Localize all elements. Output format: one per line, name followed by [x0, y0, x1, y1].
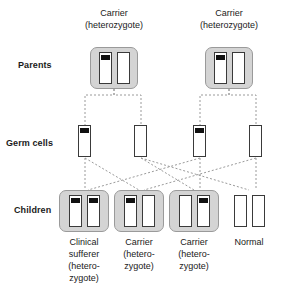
child-caption-carrier-1: Carrier (hetero- zygote) — [110, 236, 168, 272]
parent-cell-right — [205, 47, 253, 89]
germ-cell-normal — [134, 125, 147, 157]
connector-parent2-germ3 — [200, 89, 229, 125]
chromosome-normal — [234, 195, 247, 227]
parent-caption-line: Carrier — [62, 7, 166, 19]
chromosome-affected — [99, 52, 112, 84]
child-caption-line: (hetero- — [55, 260, 113, 272]
child-caption-clinical-sufferer: Clinical sufferer (hetero- zygote) — [55, 236, 113, 284]
row-label-germ-cells: Germ cells — [6, 138, 53, 148]
mutation-band-icon — [195, 128, 204, 133]
chromosome-normal — [232, 52, 245, 84]
connector-germ3-child1 — [88, 158, 200, 190]
child-cell-clinical-sufferer — [59, 190, 109, 232]
parent-caption-left: Carrier (heterozygote) — [62, 7, 166, 31]
child-caption-line: (hetero- — [165, 248, 223, 260]
chromosome-normal — [179, 195, 192, 227]
child-caption-normal: Normal — [220, 236, 278, 248]
child-caption-line: Carrier — [110, 236, 168, 248]
child-caption-line: Carrier — [165, 236, 223, 248]
row-label-parents: Parents — [18, 60, 52, 70]
child-caption-carrier-2: Carrier (hetero- zygote) — [165, 236, 223, 272]
connector-parent1-germ1 — [85, 89, 114, 125]
parent-caption-line: (heterozygote) — [62, 19, 166, 31]
child-cell-carrier-2 — [169, 190, 219, 232]
mutation-band-icon — [80, 128, 89, 133]
germ-cell-affected — [193, 125, 206, 157]
inheritance-diagram: Parents Germ cells Children Carrier (het… — [0, 0, 282, 296]
connector-germ4-child2 — [144, 158, 256, 190]
connector-parent1-germ2 — [114, 89, 141, 125]
chromosome-normal — [252, 195, 265, 227]
mutation-band-icon — [199, 198, 208, 203]
chromosome-normal — [117, 52, 130, 84]
parent-caption-line: Carrier — [177, 7, 281, 19]
mutation-band-icon — [89, 198, 98, 203]
row-label-children: Children — [14, 205, 51, 215]
connector-germ2-child3 — [141, 158, 194, 190]
mutation-band-icon — [71, 198, 80, 203]
chromosome-affected — [214, 52, 227, 84]
child-caption-line: zygote) — [110, 260, 168, 272]
parent-cell-left — [90, 47, 138, 89]
child-cell-normal — [224, 190, 274, 232]
mutation-band-icon — [101, 55, 110, 60]
chromosome-affected — [69, 195, 82, 227]
germ-cell-normal — [249, 125, 262, 157]
chromosome-normal — [142, 195, 155, 227]
child-caption-line: (hetero- — [110, 248, 168, 260]
child-caption-line: zygote) — [55, 272, 113, 284]
connector-germ2-child4 — [141, 158, 249, 190]
chromosome-affected — [197, 195, 210, 227]
parent-caption-right: Carrier (heterozygote) — [177, 7, 281, 31]
child-cell-carrier-1 — [114, 190, 164, 232]
chromosome-affected — [87, 195, 100, 227]
mutation-band-icon — [126, 198, 135, 203]
child-caption-line: zygote) — [165, 260, 223, 272]
mutation-band-icon — [216, 55, 225, 60]
connector-parent2-germ4 — [229, 89, 256, 125]
child-caption-line: Clinical — [55, 236, 113, 248]
parent-caption-line: (heterozygote) — [177, 19, 281, 31]
germ-cell-affected — [78, 125, 91, 157]
child-caption-line: Normal — [220, 236, 278, 248]
connector-germ1-child2 — [85, 158, 139, 190]
child-caption-line: sufferer — [55, 248, 113, 260]
chromosome-affected — [124, 195, 137, 227]
